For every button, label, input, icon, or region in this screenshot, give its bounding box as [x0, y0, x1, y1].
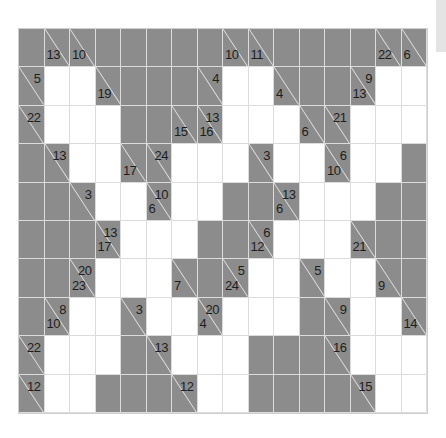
entry-cell[interactable]: [96, 144, 122, 182]
entry-cell[interactable]: [172, 221, 198, 259]
clue-cell: 1316: [198, 106, 224, 144]
blocked-cell: [121, 336, 147, 374]
entry-cell[interactable]: [274, 298, 300, 336]
across-sum: 22: [27, 341, 40, 354]
entry-cell[interactable]: [402, 106, 428, 144]
blocked-cell: [274, 336, 300, 374]
entry-cell[interactable]: [351, 183, 377, 221]
entry-cell[interactable]: [172, 336, 198, 374]
entry-cell[interactable]: [172, 144, 198, 182]
entry-cell[interactable]: [249, 259, 275, 297]
across-sum: 13: [206, 111, 219, 124]
entry-cell[interactable]: [96, 259, 122, 297]
clue-cell: 4: [274, 67, 300, 105]
blocked-cell: [121, 67, 147, 105]
across-sum: 10: [155, 188, 168, 201]
entry-cell[interactable]: [274, 221, 300, 259]
blocked-cell: [223, 183, 249, 221]
entry-cell[interactable]: [351, 144, 377, 182]
entry-cell[interactable]: [172, 183, 198, 221]
entry-cell[interactable]: [325, 183, 351, 221]
entry-cell[interactable]: [45, 336, 71, 374]
entry-cell[interactable]: [96, 298, 122, 336]
clue-cell: 22: [19, 106, 45, 144]
entry-cell[interactable]: [376, 67, 402, 105]
entry-cell[interactable]: [223, 298, 249, 336]
entry-cell[interactable]: [351, 259, 377, 297]
entry-cell[interactable]: [249, 106, 275, 144]
entry-cell[interactable]: [198, 375, 224, 413]
entry-cell[interactable]: [70, 375, 96, 413]
entry-cell[interactable]: [70, 67, 96, 105]
entry-cell[interactable]: [121, 221, 147, 259]
entry-cell[interactable]: [274, 144, 300, 182]
entry-cell[interactable]: [223, 106, 249, 144]
entry-cell[interactable]: [300, 183, 326, 221]
entry-cell[interactable]: [45, 67, 71, 105]
down-sum: 4: [200, 317, 207, 330]
entry-cell[interactable]: [402, 375, 428, 413]
blocked-cell: [96, 375, 122, 413]
entry-cell[interactable]: [300, 144, 326, 182]
entry-cell[interactable]: [223, 144, 249, 182]
down-sum: 10: [327, 164, 340, 177]
across-sum: 12: [180, 380, 193, 393]
blocked-cell: [300, 67, 326, 105]
entry-cell[interactable]: [96, 106, 122, 144]
entry-cell[interactable]: [274, 259, 300, 297]
clue-cell: 22: [19, 336, 45, 374]
down-sum: 12: [251, 240, 264, 253]
entry-cell[interactable]: [147, 221, 173, 259]
down-sum: 9: [378, 279, 385, 292]
entry-cell[interactable]: [274, 106, 300, 144]
entry-cell[interactable]: [376, 106, 402, 144]
clue-cell: 1317: [96, 221, 122, 259]
entry-cell[interactable]: [198, 144, 224, 182]
entry-cell[interactable]: [376, 336, 402, 374]
entry-cell[interactable]: [376, 375, 402, 413]
entry-cell[interactable]: [45, 106, 71, 144]
entry-cell[interactable]: [96, 183, 122, 221]
across-sum: 4: [212, 72, 219, 85]
across-sum: 5: [314, 264, 321, 277]
entry-cell[interactable]: [249, 67, 275, 105]
entry-cell[interactable]: [121, 259, 147, 297]
entry-cell[interactable]: [325, 259, 351, 297]
entry-cell[interactable]: [172, 298, 198, 336]
entry-cell[interactable]: [70, 144, 96, 182]
entry-cell[interactable]: [351, 106, 377, 144]
entry-cell[interactable]: [300, 221, 326, 259]
entry-cell[interactable]: [402, 336, 428, 374]
entry-cell[interactable]: [45, 375, 71, 413]
entry-cell[interactable]: [223, 67, 249, 105]
across-sum: 9: [365, 72, 372, 85]
blocked-cell: [19, 144, 45, 182]
entry-cell[interactable]: [198, 336, 224, 374]
entry-cell[interactable]: [351, 298, 377, 336]
entry-cell[interactable]: [249, 298, 275, 336]
across-sum: 3: [136, 303, 143, 316]
entry-cell[interactable]: [376, 144, 402, 182]
clue-cell: 3: [249, 144, 275, 182]
entry-cell[interactable]: [223, 336, 249, 374]
entry-cell[interactable]: [96, 336, 122, 374]
clue-cell: 13: [45, 144, 71, 182]
blocked-cell: [19, 221, 45, 259]
clue-cell: 3: [70, 183, 96, 221]
entry-cell[interactable]: [325, 221, 351, 259]
entry-cell[interactable]: [376, 298, 402, 336]
entry-cell[interactable]: [121, 183, 147, 221]
entry-cell[interactable]: [147, 259, 173, 297]
entry-cell[interactable]: [402, 67, 428, 105]
blocked-cell: [45, 221, 71, 259]
clue-cell: 15: [351, 375, 377, 413]
blocked-cell: [147, 375, 173, 413]
entry-cell[interactable]: [70, 336, 96, 374]
entry-cell[interactable]: [223, 375, 249, 413]
entry-cell[interactable]: [70, 106, 96, 144]
entry-cell[interactable]: [198, 183, 224, 221]
entry-cell[interactable]: [70, 298, 96, 336]
clue-cell: 106: [147, 183, 173, 221]
entry-cell[interactable]: [147, 298, 173, 336]
entry-cell[interactable]: [351, 336, 377, 374]
